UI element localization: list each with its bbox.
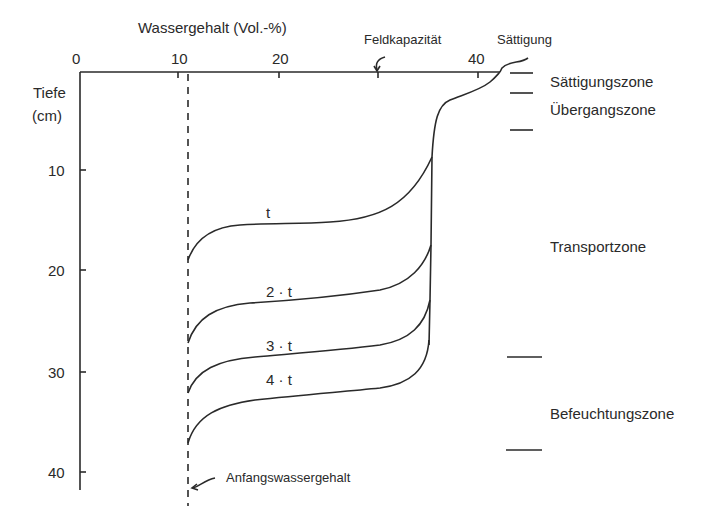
feldkapazitaet-label: Feldkapazität [364, 32, 441, 47]
saturation-transition-curve [432, 72, 500, 157]
saettigung-arrow [500, 58, 528, 72]
curve-3t [188, 300, 430, 393]
saettigung-label: Sättigung [497, 32, 552, 47]
x-tick-label-0: 0 [72, 50, 80, 67]
anfangswassergehalt-label: Anfangswassergehalt [226, 470, 350, 485]
x-tick-label-10: 10 [171, 50, 188, 67]
feldkapazitaet-arrow [376, 57, 385, 70]
y-axis-title-line2: (cm) [32, 107, 62, 124]
y-tick-label-20: 20 [48, 262, 65, 279]
curve-2t [188, 245, 431, 343]
zone-label-befeuchtungszone: Befeuchtungszone [550, 405, 674, 422]
zone-label-uebergangszone: Übergangszone [550, 101, 656, 118]
curve-t [188, 157, 432, 260]
y-tick-label-40: 40 [48, 464, 65, 481]
y-tick-label-10: 10 [48, 162, 65, 179]
zone-label-saettigungszone: Sättigungszone [550, 73, 653, 90]
curve-4t [188, 340, 429, 443]
x-tick-label-20: 20 [272, 50, 289, 67]
curve-label-3t: 3 · t [266, 337, 292, 354]
y-axis-title-line1: Tiefe [33, 84, 66, 101]
curve-label-2t: 2 · t [266, 283, 292, 300]
curve-label-4t: 4 · t [266, 371, 292, 388]
anfangswassergehalt-arrow [193, 478, 215, 488]
y-tick-label-30: 30 [48, 364, 65, 381]
x-tick-label-40: 40 [468, 50, 485, 67]
x-axis-title: Wassergehalt (Vol.-%) [138, 19, 287, 36]
zone-label-transportzone: Transportzone [550, 238, 646, 255]
curve-label-t: t [266, 204, 270, 221]
